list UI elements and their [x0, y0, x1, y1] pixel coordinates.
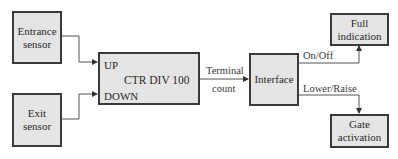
exit-sensor-label-2: sensor: [23, 120, 51, 133]
gate-activation-label-1: Gate: [349, 118, 370, 131]
on-off-label: On/Off: [303, 50, 333, 62]
full-indication-block: Full indication: [330, 13, 389, 46]
counter-block: UP CTR DIV 100 DOWN: [98, 52, 200, 105]
full-indication-label-2: indication: [338, 30, 382, 43]
lower-raise-label: Lower/Raise: [303, 83, 357, 95]
full-indication-label-1: Full: [351, 17, 369, 30]
counter-title: CTR DIV 100: [124, 74, 190, 87]
gate-activation-block: Gate activation: [330, 114, 389, 148]
exit-sensor-block: Exit sensor: [12, 93, 62, 147]
interface-block: Interface: [249, 53, 299, 106]
entrance-sensor-block: Entrance sensor: [12, 11, 62, 64]
exit-sensor-label-1: Exit: [28, 107, 46, 120]
interface-label: Interface: [254, 73, 293, 86]
terminal-count-label-1: Terminal: [206, 65, 244, 77]
counter-port-down: DOWN: [104, 90, 138, 102]
terminal-count-label-2: count: [212, 83, 235, 95]
entrance-sensor-label-1: Entrance: [17, 25, 56, 38]
entrance-sensor-label-2: sensor: [23, 38, 51, 51]
counter-port-up: UP: [104, 59, 118, 71]
gate-activation-label-2: activation: [338, 131, 381, 144]
